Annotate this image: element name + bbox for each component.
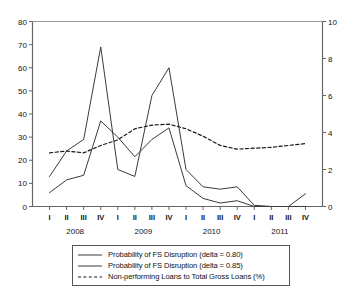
- x-axis-year-label: 2010: [203, 227, 221, 236]
- x-tick-label-quarter: II: [269, 213, 273, 222]
- x-tick-label-quarter: III: [285, 213, 291, 222]
- y-tick-label-left: 80: [18, 18, 27, 27]
- legend-label-npl: Non-performing Loans to Total Gross Loan…: [108, 272, 265, 282]
- x-tick-label-quarter: III: [217, 213, 223, 222]
- x-tick-label-quarter: III: [149, 213, 155, 222]
- y-tick-label-left: 0: [23, 203, 28, 212]
- x-tick-label-quarter: III: [81, 213, 87, 222]
- x-tick-label-quarter: IV: [97, 213, 104, 222]
- x-tick-label-quarter: II: [65, 213, 69, 222]
- legend-line-dashed-icon: [77, 272, 103, 282]
- y-tick-label-left: 50: [18, 87, 27, 96]
- x-tick-label-quarter: IV: [234, 213, 241, 222]
- series-line-delta-085: [50, 121, 306, 207]
- y-tick-label-right: 4: [328, 129, 333, 138]
- series-line-npl: [50, 124, 306, 153]
- legend-item-npl: Non-performing Loans to Total Gross Loan…: [77, 271, 285, 282]
- legend-line-solid-icon: [77, 261, 103, 271]
- y-tick-label-left: 70: [18, 41, 27, 50]
- x-tick-label-quarter: I: [117, 213, 119, 222]
- x-axis-year-label: 2009: [134, 227, 152, 236]
- y-tick-label-left: 30: [18, 133, 27, 142]
- x-tick-label-quarter: I: [253, 213, 255, 222]
- y-tick-label-left: 10: [18, 179, 27, 188]
- legend-label-delta-080: Probability of FS Disruption (delta = 0.…: [108, 250, 243, 260]
- x-tick-label-quarter: I: [185, 213, 187, 222]
- chart-container: 010203040506070800246810IIIIIIIVIIIIIIIV…: [0, 0, 361, 297]
- x-axis-year-label: 2011: [271, 227, 289, 236]
- chart-legend: Probability of FS Disruption (delta = 0.…: [72, 245, 290, 286]
- legend-item-delta-080: Probability of FS Disruption (delta = 0.…: [77, 249, 285, 260]
- x-tick-label-quarter: IV: [302, 213, 309, 222]
- y-tick-label-right: 8: [328, 55, 333, 64]
- y-tick-label-left: 60: [18, 64, 27, 73]
- y-tick-label-left: 40: [18, 110, 27, 119]
- x-tick-label-quarter: II: [133, 213, 137, 222]
- x-axis-year-label: 2008: [66, 227, 84, 236]
- y-tick-label-right: 6: [328, 92, 333, 101]
- x-tick-label-quarter: II: [201, 213, 205, 222]
- y-tick-label-right: 2: [328, 166, 333, 175]
- x-tick-label-quarter: IV: [165, 213, 172, 222]
- y-tick-label-right: 0: [328, 203, 333, 212]
- y-tick-label-left: 20: [18, 156, 27, 165]
- x-tick-label-quarter: I: [49, 213, 51, 222]
- legend-label-delta-085: Probability of FS Disruption (delta = 0.…: [108, 261, 243, 271]
- legend-item-delta-085: Probability of FS Disruption (delta = 0.…: [77, 260, 285, 271]
- line-chart-plot: 010203040506070800246810IIIIIIIVIIIIIIIV…: [0, 0, 361, 240]
- legend-line-solid-icon: [77, 250, 103, 260]
- y-tick-label-right: 10: [328, 18, 337, 27]
